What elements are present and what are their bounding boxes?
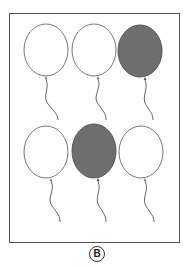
balloon-filled	[72, 124, 116, 222]
balloons-illustration	[0, 0, 183, 269]
option-label-circle: B	[89, 246, 105, 262]
option-label: B	[93, 249, 100, 259]
balloon-filled	[118, 25, 162, 120]
balloon	[24, 126, 68, 222]
balloon	[24, 24, 68, 120]
balloon	[72, 24, 116, 120]
balloon	[119, 126, 163, 222]
